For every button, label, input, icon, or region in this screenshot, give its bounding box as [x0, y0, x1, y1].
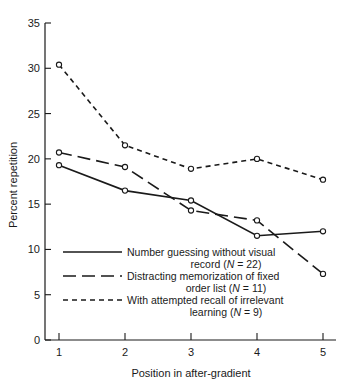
data-point [188, 208, 193, 213]
chart-legend: Number guessing without visualrecord (N … [63, 246, 283, 318]
x-tick-label: 5 [320, 346, 326, 358]
legend-label-1: Number guessing without visual [127, 246, 275, 258]
x-tick-label: 4 [254, 346, 260, 358]
y-tick-label: 35 [28, 17, 40, 29]
data-point [254, 156, 259, 161]
x-tick-label: 2 [122, 346, 128, 358]
y-tick-label: 25 [28, 108, 40, 120]
data-point [254, 233, 259, 238]
y-axis-tick-labels: 05101520253035 [28, 17, 40, 346]
y-tick-label: 30 [28, 62, 40, 74]
legend-label-2: Distracting memorization of fixed [127, 270, 279, 282]
x-axis-ticks [59, 333, 323, 340]
data-point [320, 229, 325, 234]
y-axis-title: Percent repetition [7, 142, 19, 228]
legend-label-1-line2: record (N = 22) [191, 258, 262, 270]
data-point [56, 150, 61, 155]
line-chart: 05101520253035 12345 Percent repetition … [0, 0, 350, 385]
data-point [56, 163, 61, 168]
y-tick-label: 5 [34, 289, 40, 301]
series-layer [56, 62, 325, 276]
data-point [122, 164, 127, 169]
data-point [188, 198, 193, 203]
x-axis-tick-labels: 12345 [56, 346, 326, 358]
data-point [188, 166, 193, 171]
data-point [320, 177, 325, 182]
data-point [122, 188, 127, 193]
y-tick-label: 10 [28, 243, 40, 255]
legend-label-3: With attempted recall of irrelevant [127, 294, 283, 306]
x-tick-label: 1 [56, 346, 62, 358]
legend-label-3-line2: learning (N = 9) [190, 306, 263, 318]
data-point [56, 62, 61, 67]
series-line-3 [59, 65, 323, 180]
x-tick-label: 3 [188, 346, 194, 358]
y-tick-label: 20 [28, 153, 40, 165]
x-axis-title: Position in after-gradient [131, 367, 250, 379]
legend-label-2-line2: order list (N = 11) [186, 282, 267, 294]
chart-figure: 05101520253035 12345 Percent repetition … [0, 0, 350, 385]
data-point [254, 218, 259, 223]
data-point [122, 143, 127, 148]
y-tick-label: 0 [34, 334, 40, 346]
y-tick-label: 15 [28, 198, 40, 210]
data-point [320, 271, 325, 276]
y-axis-ticks [45, 23, 51, 340]
